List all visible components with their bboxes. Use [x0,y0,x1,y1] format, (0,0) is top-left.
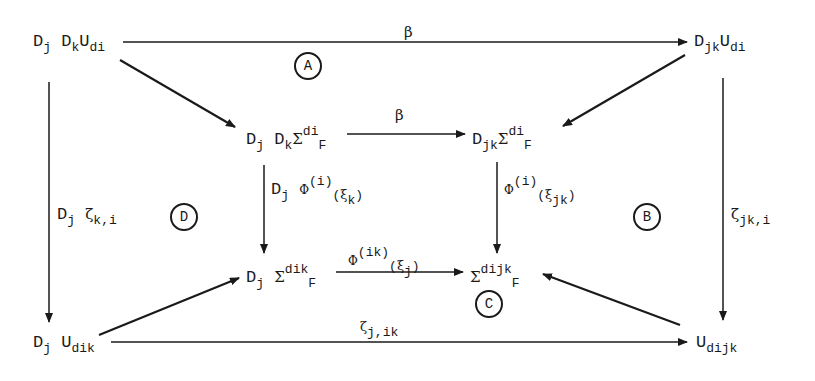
label-sub: j [67,213,75,228]
node-sub: dijk [706,341,737,356]
node-sub: F [512,276,520,291]
label-sub: j [281,188,289,203]
node-bottom-right: Udijk [696,334,737,355]
node-sub: di [89,40,105,55]
node-text: U [79,32,89,51]
node-sub: j [256,138,264,153]
node-sub: F [524,138,532,153]
sigma-symbol: Σ [498,130,509,148]
node-inner-bottom-left: Dj ΣdikF [246,263,316,290]
node-text: U [696,333,706,352]
region-marker-d: D [170,203,198,231]
node-top-right: DjkUdi [694,33,746,54]
label-inner-right: Φ(i)(ξjk) [504,175,576,207]
sigma-symbol: Σ [274,268,285,286]
zeta-symbol: ζ [360,319,367,334]
node-sub: F [318,138,326,153]
node-sub: di [730,40,746,55]
region-marker-c: C [475,290,503,318]
node-inner-top-left: Dj DkΣdiF [246,125,326,152]
paren: ( [389,259,397,274]
node-text: D [33,32,43,51]
node-text: D [274,130,284,149]
label-sub: k,i [93,213,116,228]
node-sup: di [508,124,524,139]
node-text: D [246,268,256,287]
node-text: D [61,32,71,51]
phi-symbol: Φ [504,183,514,197]
node-sub: jk [704,40,720,55]
paren: ( [537,188,545,203]
node-inner-bottom-right: ΣdijkF [470,263,520,290]
label-sub: jk,i [739,213,770,228]
node-text: U [720,32,730,51]
paren: ) [355,188,363,203]
label-inner-bottom: Φ(ik)(ξj) [348,246,420,278]
arrow-diag-tl [120,60,235,127]
region-marker-a: A [294,52,322,80]
node-sup: dijk [481,262,512,277]
label-left: Dj ζk,i [57,206,117,227]
label-sub: j [404,264,412,279]
label-text: D [57,205,67,224]
node-sub: j [43,40,51,55]
arrow-diag-tr [563,55,685,126]
node-inner-top-right: DjkΣdiF [472,125,532,152]
zeta-symbol: ζ [731,205,739,223]
paren: ) [412,259,420,274]
node-sup: dik [285,262,308,277]
label-bottom: ζj,ik [360,318,398,339]
label-sup: (ik) [358,245,389,260]
node-sup: di [303,124,319,139]
node-text: D [694,32,704,51]
node-top-left: Dj DkUdi [33,33,105,54]
node-text: U [61,333,71,352]
node-text: D [246,130,256,149]
node-text: D [472,130,482,149]
node-bottom-left: Dj Udik [33,334,95,355]
node-sub: F [308,276,316,291]
phi-symbol: Φ [299,183,309,197]
region-marker-b: B [633,203,661,231]
label-sub: j,ik [367,325,398,340]
node-sub: j [43,341,51,356]
node-sub: j [256,276,264,291]
xi-symbol: ξ [397,258,404,273]
sigma-symbol: Σ [470,268,481,286]
phi-symbol: Φ [348,254,358,268]
label-inner-top-beta: β [395,108,404,123]
node-text: D [33,333,43,352]
label-right: ζjk,i [731,206,770,227]
label-sup: (i) [514,174,537,189]
label-text: D [271,180,281,199]
arrow-diag-bl [99,278,239,335]
label-sup: (i) [309,174,332,189]
arrows-layer [0,0,815,381]
label-inner-left: Dj Φ(i)(ξk) [271,175,363,207]
label-top-beta: β [404,25,413,40]
node-sub: dik [71,341,94,356]
paren: ) [568,188,576,203]
arrow-diag-br [543,274,680,325]
sigma-symbol: Σ [292,130,303,148]
label-sub: jk [552,193,568,208]
node-sub: jk [482,138,498,153]
